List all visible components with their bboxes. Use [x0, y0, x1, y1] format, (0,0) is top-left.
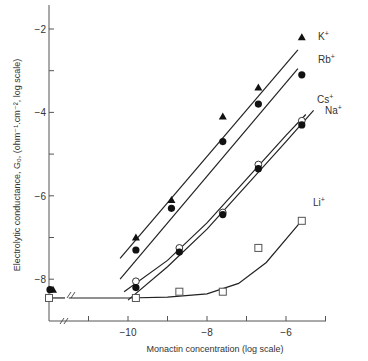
- marker-k: [254, 83, 262, 90]
- series-labels: K+Rb+Cs+Na+Li+: [313, 30, 342, 208]
- marker-li: [46, 294, 53, 301]
- y-tick-label: −8: [35, 274, 47, 285]
- fit-line-li: [69, 223, 300, 298]
- y-tick-label: −4: [35, 107, 47, 118]
- marker-li: [132, 294, 139, 301]
- series-label-li: Li+: [313, 196, 325, 208]
- baseline-break-mark: [67, 292, 75, 298]
- series-label-na: Na+: [325, 104, 342, 116]
- conductance-chart: −10−8−6−2−4−6−8 K+Rb+Cs+Na+Li+ Monactin …: [0, 0, 368, 361]
- marker-na: [176, 248, 183, 255]
- marker-na: [255, 165, 262, 172]
- y-tick-label: −2: [35, 24, 47, 35]
- marker-k: [219, 113, 227, 120]
- x-axis-title: Monactin concentration (log scale): [146, 344, 283, 354]
- marker-cs: [133, 278, 140, 285]
- x-tick-label: −10: [120, 327, 137, 338]
- series-label-rb: Rb+: [318, 53, 335, 65]
- marker-rb: [298, 71, 305, 78]
- marker-li: [255, 244, 262, 251]
- marker-li: [219, 288, 226, 295]
- fit-line-cs: [124, 115, 306, 292]
- series-label-k: K+: [318, 30, 329, 42]
- y-axis-title: Electrolytic conductance, G₀, (ohm⁻¹.cm⁻…: [12, 59, 22, 271]
- series-label-cs: Cs+: [317, 93, 333, 105]
- marker-k: [167, 196, 175, 203]
- marker-rb: [132, 246, 139, 253]
- marker-rb: [46, 286, 53, 293]
- fit-lines: [49, 50, 314, 300]
- y-tick-label: −6: [35, 191, 47, 202]
- x-tick-label: −6: [280, 327, 292, 338]
- marker-na: [298, 121, 305, 128]
- marker-rb: [219, 138, 226, 145]
- fit-line-rb: [120, 69, 298, 280]
- marker-li: [176, 288, 183, 295]
- marker-na: [219, 211, 226, 218]
- marker-rb: [255, 100, 262, 107]
- marker-rb: [168, 205, 175, 212]
- x-tick-label: −8: [201, 327, 213, 338]
- marker-na: [132, 284, 139, 291]
- marker-k: [298, 33, 306, 40]
- marker-li: [298, 217, 305, 224]
